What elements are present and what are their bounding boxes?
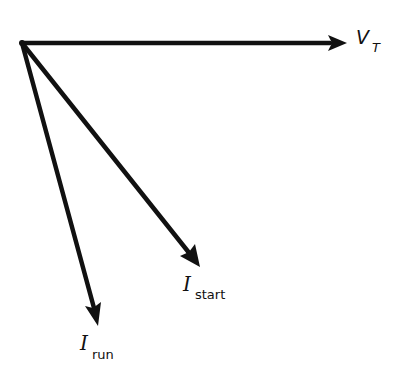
label-istart-subscript-wrap: start: [195, 285, 225, 303]
label-vt-subscript-wrap: T: [372, 38, 380, 56]
label-vt: V: [356, 26, 369, 48]
vector-irun: [22, 43, 101, 326]
label-irun-subscript-wrap: run: [92, 345, 114, 363]
label-istart: I: [183, 272, 191, 296]
label-irun-symbol: I: [80, 331, 88, 355]
label-irun: I: [80, 331, 88, 355]
label-vt-subscript: T: [372, 40, 380, 55]
label-istart-subscript: start: [195, 287, 225, 302]
irun-shaft: [22, 43, 94, 308]
phasor-diagram: [0, 0, 409, 390]
istart-shaft: [22, 43, 190, 254]
vector-istart: [22, 43, 200, 267]
label-irun-subscript: run: [92, 347, 114, 362]
label-vt-symbol: V: [356, 26, 369, 48]
vector-vt: [22, 35, 347, 51]
label-istart-symbol: I: [183, 272, 191, 296]
origin-point: [19, 40, 25, 46]
